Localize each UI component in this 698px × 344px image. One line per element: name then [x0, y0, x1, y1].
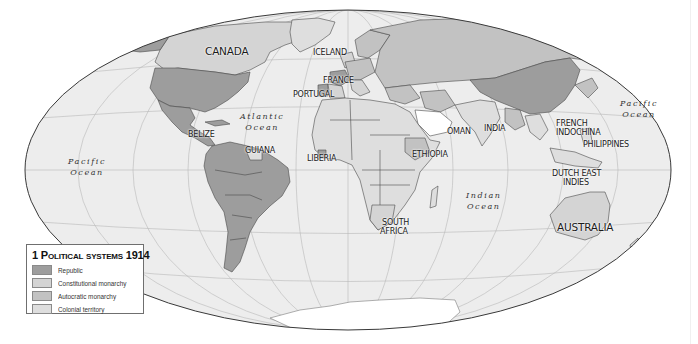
label-dutch-east: DUTCH EAST [552, 169, 601, 178]
legend-item-colonial-territory: Colonial territory [32, 303, 138, 315]
legend-item-constitutional-monarchy: Constitutional monarchy [32, 277, 138, 289]
ocean-label-pacific-west: Pacific Ocean [68, 156, 106, 178]
label-liberia: LIBERIA [307, 154, 336, 163]
label-indochina: INDOCHINA [556, 128, 600, 137]
label-portugal: PORTUGAL [293, 90, 334, 99]
page-edge [690, 0, 691, 344]
swatch-autocratic-monarchy [32, 291, 52, 301]
ocean-label-line1: Indian [466, 190, 502, 201]
label-south: SOUTH [382, 218, 409, 227]
ocean-label-line1: Pacific [68, 156, 106, 167]
map-legend: 1 Political systems 1914 Republic Consti… [26, 244, 144, 314]
legend-label: Republic [58, 266, 83, 275]
ocean-label-line2: Ocean [620, 109, 658, 120]
label-indies: INDIES [563, 178, 589, 187]
ocean-label-atlantic: Atlantic Ocean [240, 111, 284, 133]
label-guiana: GUIANA [245, 146, 275, 155]
swatch-constitutional-monarchy [32, 278, 52, 288]
label-belize: BELIZE [188, 130, 215, 139]
ocean-label-line1: Atlantic [240, 111, 284, 122]
legend-title: 1 Political systems 1914 [32, 249, 138, 261]
legend-label: Autocratic monarchy [58, 292, 116, 301]
ocean-label-line1: Pacific [620, 98, 658, 109]
legend-title-text: Political systems 1914 [41, 249, 150, 261]
label-iceland: ICELAND [313, 48, 347, 57]
legend-label: Colonial territory [58, 305, 104, 314]
label-india: INDIA [484, 124, 505, 133]
label-africa: AFRICA [380, 227, 408, 236]
label-canada: CANADA [205, 46, 248, 57]
legend-label: Constitutional monarchy [58, 279, 126, 288]
label-france: FRANCE [323, 76, 354, 85]
label-french: FRENCH [556, 119, 588, 128]
label-oman: OMAN [447, 127, 471, 136]
legend-item-autocratic-monarchy: Autocratic monarchy [32, 290, 138, 302]
ocean-label-line2: Ocean [240, 122, 284, 133]
label-australia: AUSTRALIA [557, 222, 613, 233]
swatch-republic [32, 265, 52, 275]
legend-item-republic: Republic [32, 264, 138, 276]
ocean-label-pacific-east: Pacific Ocean [620, 98, 658, 120]
ocean-label-line2: Ocean [68, 167, 106, 178]
legend-title-number: 1 [32, 249, 38, 261]
ocean-label-indian: Indian Ocean [466, 190, 502, 212]
swatch-colonial-territory [32, 304, 52, 314]
label-ethiopia: ETHIOPIA [412, 150, 448, 159]
label-philippines: PHILIPPINES [583, 140, 629, 149]
ocean-label-line2: Ocean [466, 201, 502, 212]
